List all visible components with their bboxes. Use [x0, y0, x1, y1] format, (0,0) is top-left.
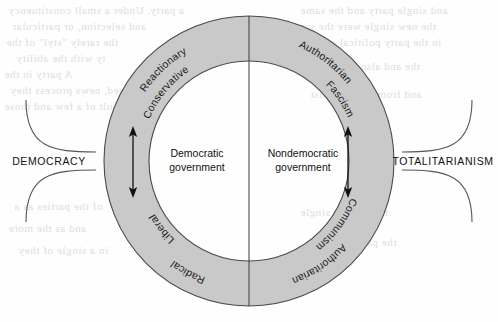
totalitarianism-label: TOTALITARIANISM	[392, 155, 493, 167]
democratic-government-line1: Democratic	[170, 147, 223, 159]
democratic-government-line2: government	[169, 161, 225, 173]
nondemocratic-government-line2: government	[275, 161, 331, 173]
spectrum-diagram: Reactionary Conservative Liberal Radical…	[0, 0, 498, 322]
democracy-label: DEMOCRACY	[12, 155, 86, 167]
nondemocratic-government-line1: Nondemocratic	[268, 147, 339, 159]
figure-canvas: a party. Under a small constituency and …	[0, 0, 498, 322]
center-right-block: Nondemocratic government	[268, 147, 339, 173]
center-left-block: Democratic government	[169, 147, 225, 173]
